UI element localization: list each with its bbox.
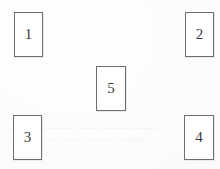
box-number-label: 5 bbox=[107, 81, 115, 96]
ghost-text-line-1: —— ——— bbox=[128, 104, 164, 110]
numbered-box-1[interactable]: 1 bbox=[14, 12, 43, 57]
box-number-label: 1 bbox=[25, 27, 33, 42]
box-number-label: 2 bbox=[196, 27, 204, 42]
box-number-label: 4 bbox=[195, 130, 203, 145]
numbered-box-2[interactable]: 2 bbox=[185, 12, 214, 57]
numbered-box-3[interactable]: 3 bbox=[13, 115, 42, 160]
box-number-label: 3 bbox=[24, 130, 32, 145]
numbered-box-5[interactable]: 5 bbox=[96, 66, 126, 111]
scanned-figure: —— ——— ——— ——— —— ————— —— ——— ——— —— ——… bbox=[0, 0, 220, 169]
numbered-box-4[interactable]: 4 bbox=[184, 115, 214, 160]
